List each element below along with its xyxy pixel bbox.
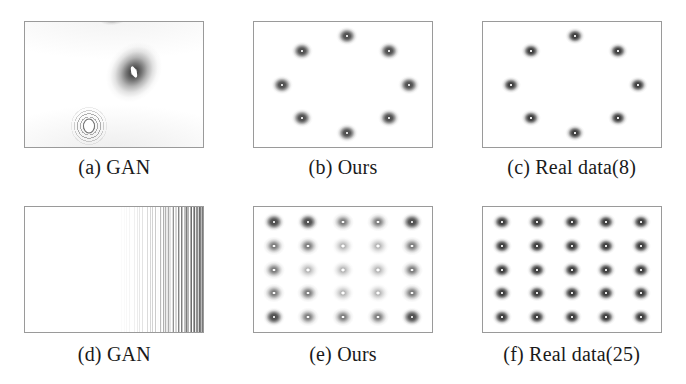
mode-f-3 (562, 214, 582, 231)
figure-grid: (a) GAN (b) Ours (c) Real data(8) (d) GA… (0, 0, 686, 384)
mode-e-24 (367, 308, 389, 327)
mode-e-14 (367, 260, 389, 279)
mode-e-8 (332, 236, 354, 255)
mode-b-3 (398, 75, 420, 94)
mode-c-6 (521, 110, 541, 127)
caption-b: (b) Ours (309, 156, 378, 179)
mode-e-22 (297, 308, 319, 327)
mode-f-8 (562, 237, 582, 254)
mode-b-2 (378, 41, 400, 60)
mode-e-20 (401, 284, 423, 303)
caption-a: (a) GAN (78, 156, 150, 179)
mode-e-2 (297, 213, 319, 232)
mode-e-10 (401, 236, 423, 255)
caption-d: (d) GAN (78, 343, 151, 366)
collapse-edge-shading (193, 207, 203, 332)
mode-b-8 (291, 41, 313, 60)
caption-f: (f) Real data(25) (503, 343, 640, 366)
mode-b-6 (291, 109, 313, 128)
mode-f-13 (562, 261, 582, 278)
mode-f-12 (527, 261, 547, 278)
panel-e-plot (253, 206, 433, 333)
mode-e-16 (263, 284, 285, 303)
mode-c-2 (608, 42, 628, 59)
subfigure-f: (f) Real data(25) (457, 192, 686, 384)
mode-e-23 (332, 308, 354, 327)
mode-f-22 (527, 309, 547, 326)
mode-f-21 (492, 309, 512, 326)
mode-f-20 (631, 285, 651, 302)
subfigure-c: (c) Real data(8) (457, 0, 686, 192)
panel-c-plot (482, 21, 662, 148)
mode-f-4 (596, 214, 616, 231)
mode-e-1 (263, 213, 285, 232)
mode-b-5 (336, 124, 358, 143)
subfigure-d: (d) GAN (0, 192, 229, 384)
mode-c-7 (501, 76, 521, 93)
panel-a-plot (24, 21, 204, 148)
mode-f-9 (596, 237, 616, 254)
mode-f-24 (596, 309, 616, 326)
mode-e-9 (367, 236, 389, 255)
mode-e-21 (263, 308, 285, 327)
mode-e-3 (332, 213, 354, 232)
mode-f-14 (596, 261, 616, 278)
caption-c: (c) Real data(8) (507, 156, 636, 179)
mode-b-1 (336, 26, 358, 45)
mode-e-25 (401, 308, 423, 327)
mode-e-13 (332, 260, 354, 279)
mode-c-8 (521, 42, 541, 59)
mode-c-1 (565, 27, 585, 44)
mode-e-19 (367, 284, 389, 303)
panel-b-plot (253, 21, 433, 148)
collapse-striations-dense (25, 207, 203, 332)
mode-c-4 (608, 110, 628, 127)
mode-f-7 (527, 237, 547, 254)
mode-f-17 (527, 285, 547, 302)
mode-c-3 (628, 76, 648, 93)
mode-c-5 (565, 125, 585, 142)
caption-e: (e) Ours (309, 343, 377, 366)
mode-f-11 (492, 261, 512, 278)
mode-e-12 (297, 260, 319, 279)
mode-e-4 (367, 213, 389, 232)
mode-f-19 (596, 285, 616, 302)
mode-f-2 (527, 214, 547, 231)
mode-e-5 (401, 213, 423, 232)
mode-f-1 (492, 214, 512, 231)
mode-e-6 (263, 236, 285, 255)
mode-f-25 (631, 309, 651, 326)
subfigure-a: (a) GAN (0, 0, 229, 192)
density-blob-contour-rings (69, 105, 109, 147)
mode-f-6 (492, 237, 512, 254)
mode-f-16 (492, 285, 512, 302)
subfigure-e: (e) Ours (229, 192, 458, 384)
mode-f-23 (562, 309, 582, 326)
mode-e-17 (297, 284, 319, 303)
mode-e-18 (332, 284, 354, 303)
mode-f-18 (562, 285, 582, 302)
mode-e-7 (297, 236, 319, 255)
mode-e-15 (401, 260, 423, 279)
mode-f-10 (631, 237, 651, 254)
mode-e-11 (263, 260, 285, 279)
panel-f-plot (482, 206, 662, 333)
mode-f-15 (631, 261, 651, 278)
subfigure-b: (b) Ours (229, 0, 458, 192)
panel-d-plot (24, 206, 204, 333)
mode-b-7 (271, 75, 293, 94)
mode-b-4 (378, 109, 400, 128)
mode-f-5 (631, 214, 651, 231)
